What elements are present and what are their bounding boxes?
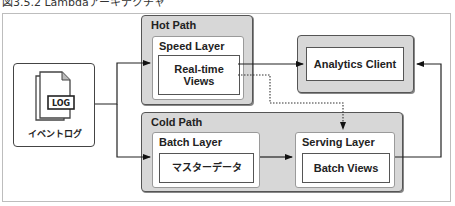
arrow-log-to-batch	[117, 104, 150, 157]
arrow-batchviews-to-client	[395, 64, 441, 157]
connector-layer	[0, 0, 455, 206]
arrow-log-to-speed	[95, 63, 150, 104]
arrow-realtime-to-serving-dotted	[238, 75, 343, 129]
